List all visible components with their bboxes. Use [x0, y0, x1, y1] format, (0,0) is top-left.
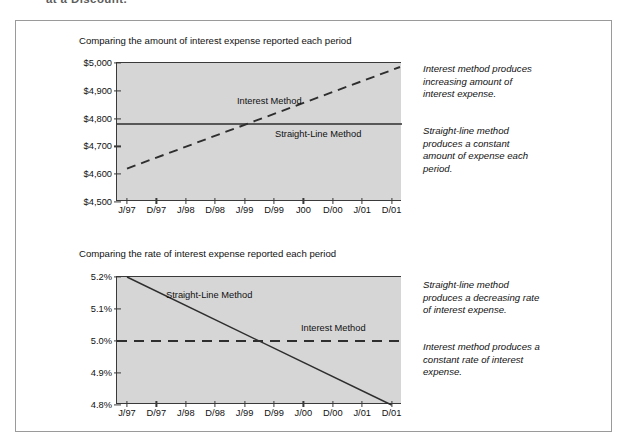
chart-1-xlabel-8: J/01: [353, 205, 371, 215]
figure-frame: Comparing the amount of interest expense…: [15, 20, 612, 432]
chart-2-interest-method-label: Interest Method: [301, 323, 366, 333]
chart-2-series-svg: [117, 277, 402, 405]
chart-2-xlabel-8: J/01: [353, 408, 371, 418]
chart-2-xlabel-0: J/97: [118, 408, 136, 418]
chart-1-xlabel-9: D/01: [382, 205, 402, 215]
chart-2-xlabel-6: J/00: [295, 408, 313, 418]
chart-1-straight-line-label: Straight-Line Method: [275, 129, 361, 139]
chart-1-note-straight: Straight-line method produces a constant…: [423, 125, 543, 175]
chart-1-ylabel-2: $4,800: [84, 114, 112, 124]
chart-1-xlabel-7: D/00: [323, 205, 343, 215]
chart-2-title: Comparing the rate of interest expense r…: [79, 248, 336, 259]
chart-1-plot-area: $5,000 $4,900 $4,800 $4,700 $4,600 $4,50…: [116, 62, 401, 201]
chart-1-ylabel-0: $5,000: [84, 58, 112, 68]
chart-2-ylabel-4: 4.8%: [91, 400, 112, 410]
chart-1-ylabel-1: $4,900: [84, 86, 112, 96]
chart-2-xlabel-5: D/99: [264, 408, 284, 418]
chart-2-note-straight: Straight-line method produces a decreasi…: [423, 279, 543, 317]
chart-2-xlabel-2: J/98: [177, 408, 195, 418]
chart-2-xlabel-3: D/98: [205, 408, 225, 418]
chart-1-ylabel-4: $4,600: [84, 169, 112, 179]
chart-2-xlabel-4: J/99: [236, 408, 254, 418]
chart-2-ylabel-2: 5.0%: [91, 336, 112, 346]
chart-1-ylabel-3: $4,700: [84, 141, 112, 151]
chart-1-xlabel-5: D/99: [264, 205, 284, 215]
chart-2-xlabel-9: D/01: [382, 408, 402, 418]
chart-2-straight-line-label: Straight-Line Method: [166, 290, 252, 300]
chart-2-ylabel-3: 4.9%: [91, 368, 112, 378]
chart-1-xlabel-3: D/98: [205, 205, 225, 215]
chart-2-xlabel-1: D/97: [147, 408, 167, 418]
cut-off-heading: at a Discount.: [46, 0, 127, 5]
chart-2-xlabel-7: D/00: [323, 408, 343, 418]
chart-1-title: Comparing the amount of interest expense…: [79, 35, 352, 46]
chart-2-ylabel-1: 5.1%: [91, 304, 112, 314]
chart-2-note-interest: Interest method produces a constant rate…: [423, 341, 543, 379]
chart-1-xlabel-4: J/99: [236, 205, 254, 215]
chart-1-xlabel-1: D/97: [147, 205, 167, 215]
chart-panel-rate: Comparing the rate of interest expense r…: [16, 226, 613, 433]
chart-1-xlabel-2: J/98: [177, 205, 195, 215]
chart-1-xlabel-6: J00: [296, 205, 311, 215]
chart-1-note-interest: Interest method produces increasing amou…: [423, 63, 543, 101]
chart-panel-amount: Comparing the amount of interest expense…: [16, 21, 613, 226]
chart-2-plot-area: 5.2% 5.1% 5.0% 4.9% 4.8% J/97 D/97 J/98 …: [116, 276, 401, 404]
chart-1-interest-method-label: Interest Method: [237, 96, 302, 106]
chart-1-ylabel-5: $4,500: [84, 197, 112, 207]
chart-1-xlabel-0: J/97: [118, 205, 136, 215]
chart-1-interest-method-series: [127, 67, 400, 169]
chart-2-ylabel-0: 5.2%: [91, 272, 112, 282]
